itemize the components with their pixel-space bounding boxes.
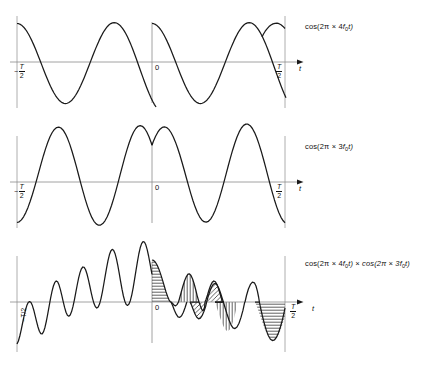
panel2-right-den: 2: [276, 192, 282, 199]
panel1-left-tick-label: − T 2: [14, 63, 25, 79]
panel1-label-suffix: t): [348, 22, 353, 31]
waveform-figure: [0, 0, 439, 367]
panel3-right-tick-label: T 2: [290, 303, 296, 319]
lobe-horizontal-2: [255, 302, 285, 340]
panel2-label-suffix: t): [348, 142, 353, 151]
panel-product: [10, 242, 297, 352]
panel3-label-suffix: t): [405, 259, 410, 268]
panel1-waveform-b: [152, 23, 286, 104]
panel3-minus-sign: −: [20, 318, 27, 322]
panel1-label-prefix: cos(2π × 4: [305, 22, 343, 31]
panel1-right-num: T: [276, 63, 282, 70]
panel2-minus-sign: −: [14, 188, 18, 195]
panel1-waveform-tail: [262, 23, 285, 37]
panel3-right-num: T: [290, 303, 296, 310]
panel3-left-num: T: [20, 313, 27, 317]
panel2-right-num: T: [276, 183, 282, 190]
panel3-left-tick-label: −T/2: [20, 308, 27, 322]
lobe-horizontal-1: [152, 260, 171, 302]
panel1-left-den: 2: [19, 72, 25, 79]
panel2-waveform: [17, 126, 152, 226]
panel1-equation-label: cos(2π × 4f0t): [305, 22, 353, 32]
panel2-zero-label: 0: [155, 183, 159, 192]
panel-cos3: [10, 124, 297, 228]
panel3-equation-label: cos(2π × 4f0t) × cos(2π × 3f0t): [305, 259, 410, 269]
panel2-left-num: T: [19, 183, 25, 190]
panel3-right-den: 2: [290, 312, 296, 319]
panel-cos4: [10, 16, 297, 108]
panel1-right-den: 2: [276, 72, 282, 79]
panel1-waveform: [17, 23, 156, 107]
panel3-shaded-lobes: [152, 260, 285, 340]
panel1-minus-sign: −: [14, 68, 18, 75]
panel2-waveform-b: [152, 124, 285, 223]
panel3-label-mid: t) × cos(2π × 3: [348, 259, 399, 268]
panel3-zero-label: 0: [155, 303, 159, 312]
panel3-waveform: [17, 242, 152, 344]
panel2-label-prefix: cos(2π × 3: [305, 142, 343, 151]
panel1-zero-label: 0: [155, 63, 159, 72]
lobe-vertical-2: [215, 302, 237, 331]
panel1-right-tick-label: T 2: [276, 63, 282, 79]
panel1-t-axis-label: t: [299, 64, 301, 73]
panel2-right-tick-label: T 2: [276, 183, 282, 199]
panel3-left-den: 2: [20, 308, 27, 312]
panel2-left-den: 2: [19, 192, 25, 199]
panel1-left-num: T: [19, 63, 25, 70]
panel2-t-axis-label: t: [299, 184, 301, 193]
panel2-left-tick-label: − T 2: [14, 183, 25, 199]
lobe-vertical-1: [179, 274, 200, 302]
panel3-label-prefix: cos(2π × 4: [305, 259, 343, 268]
panel3-t-axis-label: t: [312, 304, 314, 313]
panel2-equation-label: cos(2π × 3f0t): [305, 142, 353, 152]
